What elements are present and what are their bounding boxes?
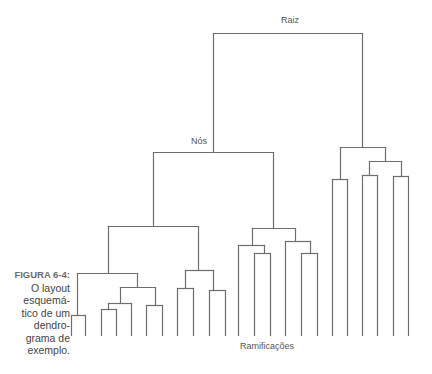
caption-line: exemplo. <box>0 344 70 357</box>
caption-line: tico de um <box>0 307 70 320</box>
caption-line: O layout <box>0 282 70 295</box>
caption-line: esquemá- <box>0 294 70 307</box>
nodes-label: Nós <box>191 136 207 146</box>
figure-caption: FIGURA 6-4: O layout esquemá- tico de um… <box>0 269 70 357</box>
branches-label: Ramificações <box>240 341 294 351</box>
caption-line: grama de <box>0 332 70 345</box>
root-label: Raiz <box>281 15 299 25</box>
caption-line: dendro- <box>0 319 70 332</box>
figure-number: FIGURA 6-4: <box>0 269 70 282</box>
